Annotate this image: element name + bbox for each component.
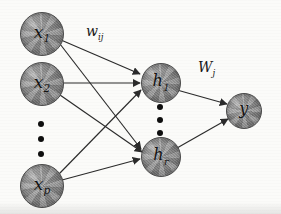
ellipsis-dot — [157, 117, 163, 123]
input-node-x2[interactable]: x2 — [20, 62, 64, 106]
edge-hr-y — [177, 119, 228, 148]
scan-artifact — [0, 202, 281, 214]
output-node-y[interactable]: y — [226, 93, 262, 129]
hidden-node-h1-label: h1 — [153, 73, 170, 92]
weight-label-wij: wij — [86, 24, 103, 41]
weight-label-Wj: Wj — [198, 60, 215, 77]
ellipsis-dot — [38, 151, 44, 157]
ellipsis-dot — [38, 136, 44, 142]
ellipsis-dot — [38, 121, 44, 127]
input-node-x2-label: x2 — [34, 74, 51, 94]
edge-x1-hr — [60, 44, 141, 149]
edge-x1-h1 — [61, 40, 140, 74]
edge-xp-hr — [62, 159, 140, 180]
ellipsis-dot — [157, 104, 163, 110]
hidden-node-hr[interactable]: hr — [141, 137, 181, 177]
input-node-xp-label: xp — [34, 176, 51, 196]
hidden-layer-ellipsis — [157, 104, 163, 136]
edge-x2-hr — [60, 95, 142, 152]
input-layer-ellipsis — [38, 121, 44, 157]
neural-network-figure: x1 x2 xp h1 hr y — [0, 0, 281, 214]
input-node-x1[interactable]: x1 — [20, 12, 64, 56]
output-node-y-label: y — [239, 101, 248, 120]
ellipsis-dot — [157, 130, 163, 136]
hidden-node-h1[interactable]: h1 — [141, 63, 181, 103]
input-node-x1-label: x1 — [34, 24, 51, 44]
edge-h1-y — [177, 90, 227, 104]
hidden-node-hr-label: hr — [153, 147, 168, 166]
